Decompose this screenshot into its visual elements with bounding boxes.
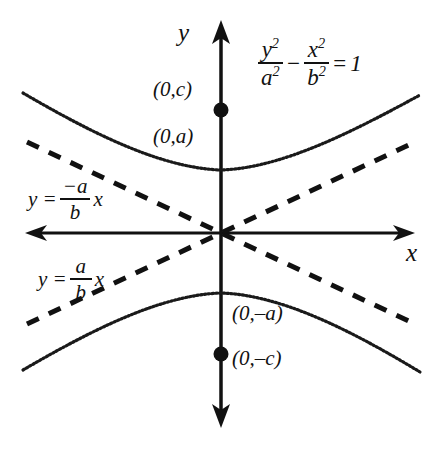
vertex-lower-label: (0,–a) xyxy=(232,303,283,324)
asymptote-positive-numerator: a xyxy=(73,256,90,278)
asymptote-negative-variable: x xyxy=(93,189,102,210)
equation-minus-operator: − xyxy=(286,52,302,75)
equation-second-numerator: x2 xyxy=(305,38,328,62)
equation-second-numerator-exponent: 2 xyxy=(318,35,325,51)
equation-second-fraction: x2 b2 xyxy=(304,38,329,89)
x-axis-label: x xyxy=(406,240,417,265)
y-axis-label: y xyxy=(178,20,189,45)
equation-equals-sign: = xyxy=(332,52,348,75)
focus-upper-dot xyxy=(214,103,229,118)
vertex-upper-label: (0,a) xyxy=(153,126,193,147)
hyperbola-figure: y x (0,c) (0,a) (0,–a) (0,–c) y2 a2 − x2… xyxy=(0,0,440,451)
asymptote-negative-numerator: −a xyxy=(60,176,91,198)
equation-first-denominator-exponent: 2 xyxy=(273,63,280,79)
asymptote-positive-denominator: b xyxy=(73,280,90,303)
focus-lower-dot xyxy=(214,347,229,362)
focus-upper-label: (0,c) xyxy=(153,79,192,100)
equation-first-numerator-exponent: 2 xyxy=(272,35,279,51)
asymptote-positive-variable: x xyxy=(95,269,104,290)
asymptote-negative-lead: y = xyxy=(28,189,57,210)
asymptote-negative-denominator: b xyxy=(67,200,84,223)
asymptote-negative-slope-label: y = −a b x xyxy=(28,176,103,223)
equation-first-denominator: a2 xyxy=(258,64,283,89)
equation-second-denominator-exponent: 2 xyxy=(319,63,326,79)
asymptote-positive-fraction: a b xyxy=(70,256,92,303)
equation-second-denominator: b2 xyxy=(304,64,329,89)
equation-first-numerator: y2 xyxy=(259,38,282,62)
equation-first-fraction: y2 a2 xyxy=(258,38,283,89)
asymptote-positive-slope-label: y = a b x xyxy=(38,256,104,303)
hyperbola-equation: y2 a2 − x2 b2 = 1 xyxy=(258,38,362,89)
asymptote-negative-fraction: −a b xyxy=(60,176,91,223)
asymptote-positive-lead: y = xyxy=(38,269,67,290)
equation-right-hand-side: 1 xyxy=(350,52,362,75)
focus-lower-label: (0,–c) xyxy=(232,348,282,369)
hyperbola-plot-canvas xyxy=(0,0,440,451)
